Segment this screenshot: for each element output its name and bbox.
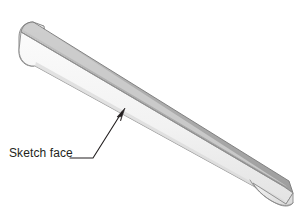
bar-top-highlight-edge [23, 23, 288, 187]
bar-front-face-shading [35, 62, 286, 204]
callout-leader-line [70, 112, 122, 158]
bar-front-face-sketch-face [19, 32, 293, 204]
sketch-face-label: Sketch face [9, 146, 73, 160]
bar-illustration [0, 0, 304, 224]
bar-face-crease-line [21, 32, 283, 186]
figure-canvas: Sketch face [0, 0, 304, 224]
